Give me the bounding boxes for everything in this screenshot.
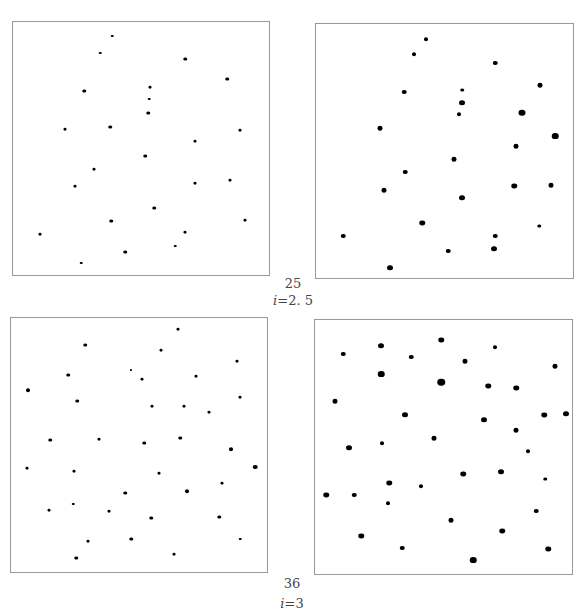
data-point-dot [109, 219, 113, 222]
data-point-dot [221, 482, 224, 485]
data-point-dot [538, 83, 543, 88]
data-point-dot [386, 481, 392, 486]
data-point-dot [123, 250, 127, 253]
data-point-dot [80, 262, 83, 264]
data-point-dot [229, 447, 233, 451]
data-point-dot [160, 349, 163, 352]
data-point-dot [514, 144, 519, 149]
data-point-dot [141, 378, 144, 381]
data-point-dot [83, 343, 87, 346]
data-point-dot [498, 469, 504, 474]
data-point-dot [457, 112, 461, 116]
data-point-dot [378, 126, 383, 131]
data-point-dot [148, 98, 151, 100]
data-point-dot [380, 441, 384, 445]
data-point-dot [174, 245, 177, 247]
data-point-dot [177, 328, 180, 331]
data-point-dot [93, 168, 96, 171]
data-point-dot [358, 534, 364, 539]
data-point-dot [239, 396, 242, 399]
param-label-36: i=3 [252, 596, 332, 611]
data-point-dot [253, 465, 258, 469]
data-point-dot [459, 195, 465, 200]
data-point-dot [48, 509, 51, 512]
data-point-dot [151, 405, 154, 408]
data-point-dot [403, 170, 408, 174]
data-point-dot [460, 88, 464, 91]
data-point-dot [499, 529, 505, 534]
data-point-dot [217, 515, 221, 518]
data-point-dot [493, 61, 498, 65]
data-point-dot [208, 411, 211, 414]
data-point-dot [194, 182, 197, 185]
data-point-dot [514, 428, 519, 433]
data-point-dot [419, 221, 425, 226]
data-point-dot [382, 188, 387, 193]
data-point-dot [409, 355, 414, 359]
data-point-dot [432, 436, 437, 441]
data-point-dot [26, 467, 29, 470]
data-point-dot [82, 89, 86, 92]
data-point-dot [437, 379, 445, 386]
panel-36-small [10, 317, 268, 573]
data-point-dot [333, 399, 338, 404]
data-point-dot [146, 111, 150, 114]
data-point-dot [98, 438, 101, 441]
data-point-dot [545, 547, 551, 552]
data-point-dot [26, 388, 30, 392]
data-point-dot [194, 140, 197, 143]
data-point-dot [513, 386, 519, 391]
data-point-dot [402, 90, 407, 94]
data-point-dot [552, 133, 559, 139]
data-point-dot [123, 491, 127, 494]
data-point-dot [129, 537, 133, 540]
data-point-dot [178, 436, 182, 439]
data-point-dot [239, 538, 242, 540]
count-label-25: 25 [253, 276, 333, 291]
data-point-dot [493, 234, 498, 238]
data-point-dot [446, 249, 451, 253]
data-point-dot [511, 184, 517, 189]
param-label-25: i=2. 5 [253, 293, 333, 308]
data-point-dot [387, 265, 393, 270]
data-point-dot [236, 360, 239, 363]
data-point-dot [48, 438, 52, 441]
data-point-dot [341, 234, 346, 238]
data-point-dot [485, 384, 491, 389]
data-point-dot [73, 470, 76, 473]
data-point-dot [152, 206, 156, 209]
data-point-dot [185, 489, 189, 493]
data-point-dot [491, 246, 497, 251]
data-point-dot [400, 546, 405, 550]
data-point-dot [39, 233, 42, 236]
data-point-dot [225, 77, 229, 80]
data-point-dot [563, 411, 569, 416]
data-point-dot [438, 338, 444, 343]
data-point-dot [459, 100, 465, 105]
data-point-dot [541, 413, 547, 418]
data-point-dot [149, 86, 152, 89]
data-point-dot [195, 375, 198, 378]
data-point-dot [74, 556, 78, 559]
data-point-dot [183, 57, 187, 60]
data-point-dot [424, 37, 428, 41]
data-point-dot [534, 509, 539, 513]
data-point-dot [229, 179, 232, 182]
data-point-dot [378, 371, 385, 377]
data-point-dot [149, 516, 153, 519]
data-point-dot [244, 219, 247, 222]
data-point-dot [493, 345, 497, 349]
data-point-dot [108, 125, 112, 128]
data-point-dot [75, 399, 79, 402]
data-point-dot [519, 110, 526, 116]
data-point-dot [64, 128, 67, 131]
data-point-dot [108, 510, 111, 513]
data-point-dot [346, 445, 352, 450]
data-point-dot [449, 518, 454, 523]
data-point-dot [549, 183, 554, 188]
data-point-dot [470, 557, 477, 563]
data-point-dot [341, 352, 346, 356]
data-point-dot [158, 472, 161, 475]
data-point-dot [526, 449, 530, 453]
data-point-dot [460, 472, 466, 477]
